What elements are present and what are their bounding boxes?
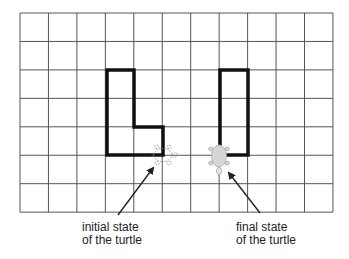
final-state-label-line2: of the turtle — [236, 234, 296, 247]
final-turtle-icon — [209, 145, 230, 174]
l-shape-path — [107, 70, 163, 155]
initial-state-arrow — [118, 168, 153, 215]
initial-state-label-line2: of the turtle — [82, 234, 142, 247]
grid — [20, 13, 333, 212]
rectangle-shape-path — [220, 70, 248, 155]
final-state-arrow — [229, 173, 260, 213]
final-state-label: final state of the turtle — [236, 221, 296, 247]
turtle-diagram — [0, 0, 349, 259]
initial-state-label: initial state of the turtle — [82, 221, 142, 247]
